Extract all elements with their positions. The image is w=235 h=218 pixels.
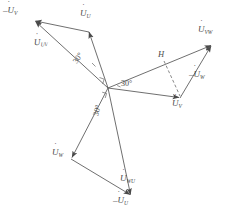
label-wu-line-voltage-symbol: U	[120, 174, 127, 183]
label-vw-line-voltage-symbol: U	[198, 25, 205, 34]
angle-arc-right	[117, 86, 120, 88]
height-label-h: H	[158, 50, 164, 59]
label-v-phase-symbol: U	[172, 99, 179, 108]
label-uv-line-voltage-symbol: U	[34, 38, 41, 47]
label-u-phase: UU	[80, 9, 90, 19]
label-w-phase: UW	[52, 148, 63, 158]
vector-negative-v-phase	[36, 21, 90, 32]
label-negative-v-phase-symbol: –U	[3, 6, 14, 15]
label-negative-u-phase: –UU	[113, 196, 128, 206]
label-uv-line-voltage: UUV	[34, 38, 48, 49]
label-wu-line-voltage: UWU	[120, 174, 135, 184]
label-v-phase: UV	[172, 99, 182, 109]
label-negative-v-phase-subscript: V	[14, 10, 17, 16]
label-negative-w-phase: –UW	[189, 70, 204, 80]
label-negative-v-phase: –UV	[3, 6, 17, 16]
angle-arc-upper-left	[92, 63, 96, 67]
angle-label-right: 30°	[121, 80, 132, 88]
vector-w-phase	[72, 88, 108, 158]
label-w-phase-symbol: U	[52, 148, 59, 157]
label-wu-line-voltage-subscript: WU	[127, 178, 135, 184]
label-u-phase-symbol: U	[80, 9, 87, 18]
phasor-diagram-figure: UU –UV UUV UV –UW UVW UW –UU UWU 30° 30°…	[0, 0, 235, 218]
label-negative-u-phase-symbol: –U	[113, 196, 124, 205]
label-negative-w-phase-subscript: W	[200, 74, 204, 80]
label-vw-line-voltage-subscript: VW	[205, 29, 213, 35]
label-u-phase-subscript: U	[87, 13, 91, 19]
label-w-phase-subscript: W	[59, 152, 63, 158]
vector-v-phase	[108, 88, 179, 98]
label-negative-u-phase-subscript: U	[124, 200, 128, 206]
label-uv-line-voltage-subscript: UV	[40, 41, 47, 47]
dashed-perpendicular-height	[164, 61, 180, 96]
label-negative-w-phase-symbol: –U	[189, 70, 200, 79]
angle-mark-group	[92, 63, 121, 98]
label-vw-line-voltage: UVW	[198, 25, 212, 35]
